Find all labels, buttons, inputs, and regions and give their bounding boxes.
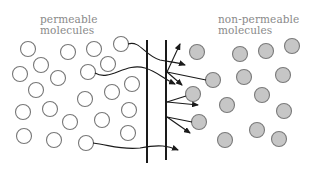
permeable-molecule [101, 57, 116, 72]
permeable-molecule [51, 71, 66, 86]
permeable-molecule [79, 136, 94, 151]
non-permeable-molecule [276, 68, 291, 83]
permeable-molecule [121, 126, 136, 141]
approach-line [167, 72, 206, 80]
approach-line [167, 96, 186, 102]
permeable-molecule [61, 45, 76, 60]
permeable-molecule [13, 67, 28, 82]
crossing-path [128, 43, 185, 65]
non-permeable-molecule [218, 133, 233, 148]
permeable-molecule [125, 77, 140, 92]
membrane-diagram [0, 0, 310, 172]
non-permeable-molecule [190, 45, 205, 60]
non-permeable-molecule [259, 44, 274, 59]
non-permeable-molecule [272, 132, 287, 147]
non-permeable-molecule [285, 39, 300, 54]
permeable-molecule [95, 113, 110, 128]
permeable-molecule [43, 102, 58, 117]
non-permeable-molecule [220, 98, 235, 113]
bounce-arrow [167, 102, 198, 105]
non-permeable-molecule [233, 47, 248, 62]
permeable-molecule [114, 37, 129, 52]
non-permeable-molecules [186, 39, 300, 148]
permeable-molecule [16, 105, 31, 120]
non-permeable-molecule [255, 88, 270, 103]
permeable-molecule [17, 129, 32, 144]
bounce-arrow [167, 44, 180, 72]
permeable-molecule [87, 42, 102, 57]
non-permeable-molecule [250, 123, 265, 138]
permeable-molecule [122, 103, 137, 118]
permeable-molecule [78, 92, 93, 107]
permeable-molecule [47, 133, 62, 148]
non-permeable-molecule [277, 104, 292, 119]
permeable-molecule [81, 65, 96, 80]
non-permeable-molecule [192, 115, 207, 130]
permeable-molecules [13, 37, 140, 151]
permeable-molecule [105, 85, 120, 100]
non-permeable-molecule [206, 73, 221, 88]
non-permeable-molecule [237, 70, 252, 85]
permeable-molecule [29, 83, 44, 98]
permeable-molecule [63, 115, 78, 130]
non-permeable-molecule [186, 87, 201, 102]
permeable-molecule [34, 58, 49, 73]
permeable-molecule [21, 42, 36, 57]
